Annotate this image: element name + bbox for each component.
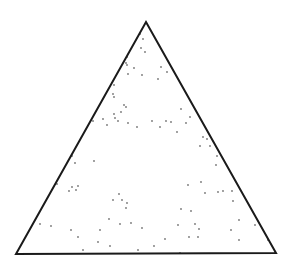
scatter-point	[200, 181, 202, 183]
scatter-point	[50, 225, 52, 227]
scatter-point	[74, 162, 76, 164]
scatter-point	[120, 111, 122, 113]
scatter-point	[126, 202, 128, 204]
scatter-point	[177, 224, 179, 226]
scatter-point	[102, 118, 104, 120]
scatter-point	[153, 245, 155, 247]
scatter-point	[123, 104, 125, 106]
scatter-point	[125, 62, 127, 64]
scatter-point	[180, 208, 182, 210]
scatter-point	[133, 67, 135, 69]
scatter-point	[137, 249, 139, 251]
scatter-point	[238, 219, 240, 221]
scatter-point	[231, 190, 233, 192]
scatter-point	[217, 191, 219, 193]
scatter-point	[113, 84, 115, 86]
scatter-point	[127, 73, 129, 75]
scatter-point	[230, 229, 232, 231]
scatter-point	[144, 51, 146, 53]
scatter-point	[215, 164, 217, 166]
scatter-point	[141, 227, 143, 229]
scatter-point	[141, 74, 143, 76]
scatter-point	[125, 106, 127, 108]
scatter-point	[157, 78, 159, 80]
scatter-point	[108, 218, 110, 220]
scatter-point	[187, 184, 189, 186]
scatter-point	[99, 229, 101, 231]
scatter-point	[71, 186, 73, 188]
scatter-point	[151, 120, 153, 122]
scatter-point	[199, 145, 201, 147]
scatter-point	[194, 223, 196, 225]
scatter-point	[97, 241, 99, 243]
scatter-point	[127, 122, 129, 124]
scatter-point	[202, 136, 204, 138]
triangle-outline	[16, 22, 276, 254]
scatter-point	[112, 199, 114, 201]
scatter-point	[185, 122, 187, 124]
scatter-point	[176, 131, 178, 133]
scatter-point	[117, 120, 119, 122]
scatter-point	[118, 193, 120, 195]
scatter-point	[77, 236, 79, 238]
scatter-point	[216, 155, 218, 157]
scatter-point	[197, 236, 199, 238]
scatter-point	[126, 64, 128, 66]
scatter-point	[198, 228, 200, 230]
scatter-point	[113, 113, 115, 115]
scatter-point	[82, 249, 84, 251]
scatter-point	[39, 223, 41, 225]
scatter-point	[232, 200, 234, 202]
scatter-point	[165, 120, 167, 122]
scatter-point	[113, 96, 115, 98]
scatter-point	[125, 207, 127, 209]
scatter-point	[77, 185, 79, 187]
scatter-point	[75, 189, 77, 191]
scatter-point	[166, 71, 168, 73]
scatter-point	[119, 223, 121, 225]
scatter-point	[70, 229, 72, 231]
scatter-point	[188, 236, 190, 238]
scatter-points	[39, 33, 269, 254]
scatter-point	[164, 238, 166, 240]
scatter-point	[180, 108, 182, 110]
scatter-point	[204, 192, 206, 194]
scatter-point	[160, 66, 162, 68]
triangle-scatter-diagram	[0, 0, 289, 277]
scatter-point	[109, 245, 111, 247]
scatter-point	[93, 160, 95, 162]
scatter-point	[130, 222, 132, 224]
scatter-point	[190, 210, 192, 212]
scatter-point	[68, 190, 70, 192]
scatter-point	[209, 145, 211, 147]
scatter-point	[159, 126, 161, 128]
scatter-point	[254, 224, 256, 226]
scatter-point	[92, 120, 94, 122]
scatter-point	[112, 93, 114, 95]
scatter-point	[222, 190, 224, 192]
scatter-point	[106, 124, 108, 126]
scatter-point	[140, 47, 142, 49]
scatter-point	[121, 199, 123, 201]
scatter-point	[114, 117, 116, 119]
scatter-point	[206, 138, 208, 140]
scatter-point	[189, 116, 191, 118]
scatter-point	[238, 239, 240, 241]
scatter-point	[142, 38, 144, 40]
scatter-point	[170, 121, 172, 123]
scatter-point	[136, 126, 138, 128]
